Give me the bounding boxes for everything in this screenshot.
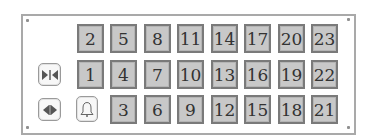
corner-screw <box>26 19 29 22</box>
tile-button[interactable]: 23 <box>311 24 338 53</box>
tile-button[interactable]: 12 <box>211 95 238 124</box>
arrows-outward-icon <box>42 105 58 115</box>
tile-button[interactable]: 14 <box>211 24 238 53</box>
corner-screw <box>347 126 350 129</box>
tile-button[interactable]: 3 <box>110 95 137 124</box>
corner-screw <box>347 18 350 21</box>
tile-button[interactable]: 17 <box>244 24 271 53</box>
tile-button[interactable]: 16 <box>244 60 271 89</box>
tile-button[interactable]: 6 <box>144 95 171 124</box>
tile-button[interactable]: 4 <box>110 60 137 89</box>
tile-button[interactable]: 1 <box>77 60 104 89</box>
tile-button[interactable]: 5 <box>110 24 137 53</box>
bell-button[interactable] <box>76 96 98 122</box>
tile-button[interactable]: 2 <box>77 24 104 53</box>
tile-button[interactable]: 11 <box>177 24 204 53</box>
collapse-horizontal-button[interactable] <box>38 63 61 86</box>
tile-button[interactable]: 9 <box>177 95 204 124</box>
tile-button[interactable]: 18 <box>278 95 305 124</box>
arrows-inward-icon <box>42 70 58 80</box>
tile-button[interactable]: 19 <box>278 60 305 89</box>
tile-button[interactable]: 13 <box>211 60 238 89</box>
tile-button[interactable]: 10 <box>177 60 204 89</box>
tile-button[interactable]: 8 <box>144 24 171 53</box>
expand-horizontal-button[interactable] <box>38 98 61 121</box>
tile-button[interactable]: 22 <box>311 60 338 89</box>
tile-button[interactable]: 7 <box>144 60 171 89</box>
tile-button[interactable]: 21 <box>311 95 338 124</box>
bell-icon <box>80 101 94 118</box>
tile-button[interactable]: 20 <box>278 24 305 53</box>
corner-screw <box>26 126 29 129</box>
tile-button[interactable]: 15 <box>244 95 271 124</box>
